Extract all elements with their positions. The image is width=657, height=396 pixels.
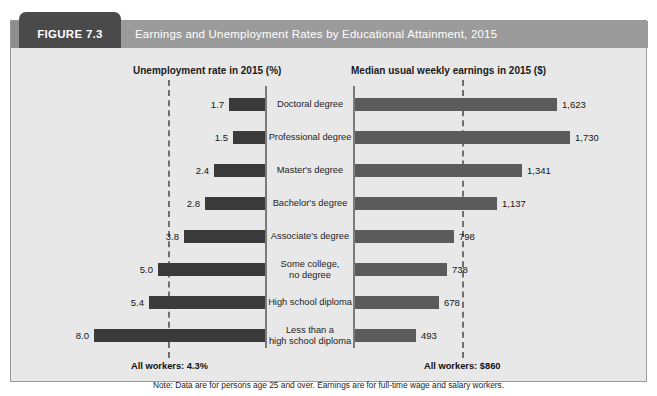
earnings-value-label: 1,137 bbox=[502, 197, 526, 210]
figure-panel: FIGURE 7.3 Earnings and Unemployment Rat… bbox=[10, 20, 647, 382]
figure-number-tab: FIGURE 7.3 bbox=[19, 12, 121, 48]
earnings-value-label: 798 bbox=[459, 230, 475, 243]
chart-row: 2.4Master's degree1,341 bbox=[11, 154, 646, 187]
unemployment-value-label: 8.0 bbox=[11, 329, 89, 342]
chart-row: 5.0Some college,no degree738 bbox=[11, 253, 646, 286]
earnings-value-label: 1,623 bbox=[562, 98, 586, 111]
earnings-value-label: 738 bbox=[452, 263, 468, 276]
chart-row: 1.5Professional degree1,730 bbox=[11, 121, 646, 154]
all-workers-unemployment-label: All workers: 4.3% bbox=[131, 361, 208, 371]
chart-row: 1.7Doctoral degree1,623 bbox=[11, 88, 646, 121]
figure-header: FIGURE 7.3 Earnings and Unemployment Rat… bbox=[11, 21, 648, 48]
earnings-bar bbox=[355, 329, 416, 342]
unemployment-value-label: 5.4 bbox=[11, 296, 144, 309]
earnings-bar bbox=[355, 98, 557, 111]
unemployment-value-label: 3.8 bbox=[11, 230, 179, 243]
unemployment-value-label: 2.8 bbox=[11, 197, 200, 210]
unemployment-bar bbox=[158, 263, 265, 276]
category-label: High school diploma bbox=[267, 286, 353, 319]
figure-container: FIGURE 7.3 Earnings and Unemployment Rat… bbox=[0, 0, 657, 396]
unemployment-bar bbox=[184, 230, 265, 243]
earnings-bar bbox=[355, 164, 522, 177]
chart-area: Unemployment rate in 2015 (%) Median usu… bbox=[11, 48, 646, 381]
unemployment-bar bbox=[94, 329, 265, 342]
figure-title: Earnings and Unemployment Rates by Educa… bbox=[135, 28, 497, 40]
unemployment-bar bbox=[229, 98, 265, 111]
earnings-bar bbox=[355, 296, 439, 309]
earnings-bar bbox=[355, 197, 497, 210]
unemployment-bar bbox=[214, 164, 265, 177]
chart-row: 8.0Less than ahigh school diploma493 bbox=[11, 319, 646, 352]
earnings-value-label: 1,730 bbox=[575, 131, 599, 144]
category-label: Master's degree bbox=[267, 154, 353, 187]
earnings-bar bbox=[355, 131, 570, 144]
category-label: Some college,no degree bbox=[267, 253, 353, 286]
unemployment-value-label: 1.5 bbox=[11, 131, 228, 144]
chart-row: 2.8Bachelor's degree1,137 bbox=[11, 187, 646, 220]
earnings-value-label: 1,341 bbox=[527, 164, 551, 177]
category-label: Doctoral degree bbox=[267, 88, 353, 121]
earnings-value-label: 493 bbox=[421, 329, 437, 342]
category-label: Associate's degree bbox=[267, 220, 353, 253]
chart-row: 3.8Associate's degree798 bbox=[11, 220, 646, 253]
category-label: Less than ahigh school diploma bbox=[267, 319, 353, 352]
unemployment-axis-title: Unemployment rate in 2015 (%) bbox=[133, 65, 281, 76]
figure-number-label: FIGURE 7.3 bbox=[19, 28, 121, 40]
figure-note: Note: Data are for persons age 25 and ov… bbox=[11, 380, 646, 390]
all-workers-earnings-label: All workers: $860 bbox=[424, 361, 500, 371]
unemployment-bar bbox=[233, 131, 265, 144]
unemployment-value-label: 5.0 bbox=[11, 263, 153, 276]
unemployment-value-label: 1.7 bbox=[11, 98, 224, 111]
earnings-value-label: 678 bbox=[444, 296, 460, 309]
chart-row: 5.4High school diploma678 bbox=[11, 286, 646, 319]
unemployment-value-label: 2.4 bbox=[11, 164, 209, 177]
unemployment-bar bbox=[205, 197, 265, 210]
category-label: Bachelor's degree bbox=[267, 187, 353, 220]
earnings-bar bbox=[355, 230, 454, 243]
earnings-bar bbox=[355, 263, 447, 276]
unemployment-bar bbox=[149, 296, 265, 309]
category-label: Professional degree bbox=[267, 121, 353, 154]
earnings-axis-title: Median usual weekly earnings in 2015 ($) bbox=[351, 65, 546, 76]
